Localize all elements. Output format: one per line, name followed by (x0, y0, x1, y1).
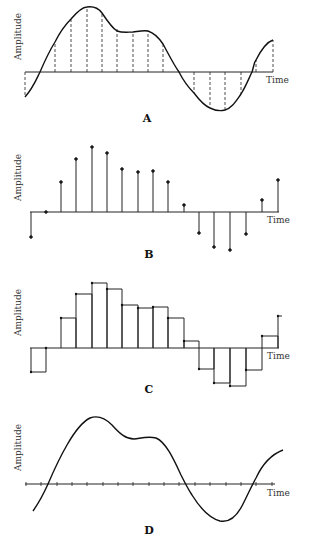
y-axis-label: Amplitude (13, 154, 23, 201)
y-axis-label: Amplitude (13, 289, 23, 336)
panel-b: Amplitude Time B (0, 135, 309, 270)
x-axis-label: Time (267, 488, 290, 498)
panel-c: Amplitude Time C (0, 270, 309, 405)
panel-label: A (137, 112, 157, 125)
hold-points (30, 282, 279, 387)
sample-stems (30, 146, 280, 252)
panel-label: D (139, 524, 159, 537)
panel-d: Amplitude Time D (0, 405, 309, 544)
sampling-lines (25, 7, 273, 110)
analog-waveform (25, 7, 273, 111)
panel-label: B (139, 248, 159, 261)
panel-a: Amplitude Time A (0, 0, 309, 135)
reconstructed-waveform (33, 417, 283, 521)
x-axis-label: Time (267, 215, 290, 225)
staircase-steps (31, 283, 278, 386)
y-axis-label: Amplitude (13, 13, 23, 60)
x-axis-label: Time (266, 75, 289, 85)
panel-label: C (139, 383, 159, 396)
y-axis-label: Amplitude (13, 424, 23, 471)
x-axis-label: Time (267, 351, 290, 361)
